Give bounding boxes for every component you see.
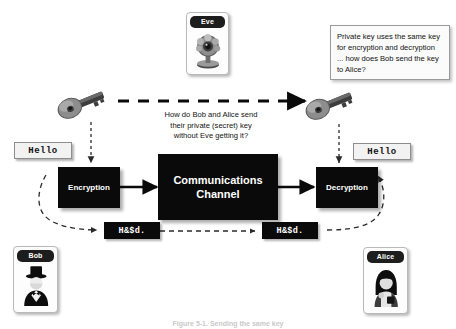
question-line-2: their private (secret) key	[140, 121, 282, 132]
channel-label-line-2: Channel	[173, 187, 262, 201]
private-key-note-text: Private key uses the same key for encryp…	[337, 32, 440, 74]
alice-card[interactable]: Alice	[363, 247, 408, 314]
encryption-box[interactable]: Encryption	[58, 167, 120, 208]
key-icon	[53, 84, 109, 124]
alice-card-title: Alice	[367, 251, 404, 263]
spy-webcam-icon	[190, 28, 225, 72]
crypto-key-exchange-diagram: Eve Private key us	[0, 0, 456, 329]
private-key-note: Private key uses the same key for encryp…	[330, 25, 450, 80]
question-line-1: How do Bob and Alice send	[140, 110, 282, 121]
woman-avatar-icon	[367, 263, 404, 311]
figure-caption: Figure 5-1. Sending the same key	[0, 320, 456, 327]
channel-label-line-1: Communications	[173, 173, 262, 187]
ciphertext-left: H&$d.	[104, 222, 160, 239]
plaintext-left: Hello	[14, 142, 72, 159]
question-line-3: without Eve getting it?	[140, 131, 282, 142]
key-exchange-question: How do Bob and Alice send their private …	[140, 110, 282, 142]
ciphertext-right: H&$d.	[262, 222, 318, 239]
key-icon	[301, 84, 357, 126]
key-icon-right-wrapper	[301, 84, 357, 126]
man-tophat-avatar-icon	[17, 262, 54, 310]
bob-card-title: Bob	[17, 250, 54, 262]
communications-channel-box[interactable]: Communications Channel	[158, 154, 278, 220]
plaintext-right: Hello	[353, 143, 411, 160]
decryption-box[interactable]: Decryption	[316, 167, 378, 208]
eve-card-title: Eve	[190, 16, 225, 28]
key-icon-left-wrapper	[53, 84, 109, 124]
eve-card[interactable]: Eve	[186, 12, 229, 75]
bob-card[interactable]: Bob	[13, 246, 58, 313]
